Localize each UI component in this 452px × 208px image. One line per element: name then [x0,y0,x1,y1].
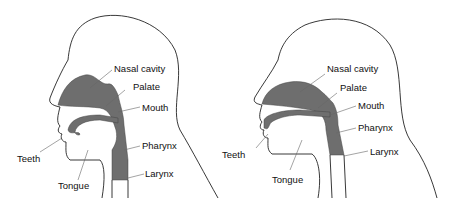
label-tongue: Tongue [58,180,89,191]
vocal-tract-diagram: Nasal cavity Palate Mouth Pharynx Larynx… [0,0,452,208]
label-palate: Palate [340,82,367,93]
right-head: Nasal cavity Palate Mouth Pharynx Larynx… [222,19,437,198]
label-mouth: Mouth [142,102,168,113]
label-larynx: Larynx [145,168,174,179]
label-pharynx: Pharynx [358,122,393,133]
label-palate: Palate [133,81,160,92]
right-larynx-tube [330,155,346,198]
label-teeth: Teeth [222,149,245,160]
left-tongue-arch [68,115,118,135]
label-larynx: Larynx [370,146,399,157]
label-tongue: Tongue [272,174,303,185]
label-teeth: Teeth [17,153,40,164]
label-pharynx: Pharynx [142,140,177,151]
left-head-outline [50,15,218,198]
left-larynx-tube [112,180,128,198]
label-mouth: Mouth [358,100,384,111]
right-tongue-arch [264,110,330,129]
label-nasal-cavity: Nasal cavity [327,63,378,74]
left-head: Nasal cavity Palate Mouth Pharynx Larynx… [17,15,218,198]
right-head-outline [254,19,437,198]
label-nasal-cavity: Nasal cavity [114,63,165,74]
